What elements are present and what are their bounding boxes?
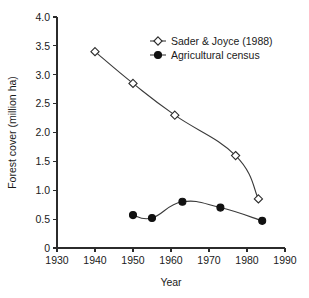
data-point — [259, 217, 266, 224]
legend-label: Sader & Joyce (1988) — [171, 35, 273, 47]
y-tick-label: 2.5 — [35, 97, 50, 109]
x-tick-label: 1960 — [159, 254, 183, 266]
y-tick-label: 4.0 — [35, 11, 50, 23]
legend-entry: Agricultural census — [150, 49, 260, 61]
x-axis-ticks: 1930194019501960197019801990 — [45, 248, 297, 266]
data-point — [149, 214, 156, 221]
data-point — [171, 111, 179, 119]
data-point — [254, 195, 262, 203]
line-chart: 00.51.01.52.02.53.03.54.0193019401950196… — [0, 0, 309, 298]
x-tick-label: 1930 — [45, 254, 69, 266]
x-tick-label: 1940 — [83, 254, 107, 266]
y-tick-label: 2.0 — [35, 126, 50, 138]
chart-figure: 00.51.01.52.02.53.03.54.0193019401950196… — [0, 0, 309, 298]
x-tick-label: 1970 — [197, 254, 221, 266]
x-tick-label: 1980 — [235, 254, 259, 266]
legend-marker — [155, 52, 162, 59]
y-tick-label: 3.5 — [35, 40, 50, 52]
data-point — [179, 198, 186, 205]
legend-marker — [154, 37, 162, 45]
series-2 — [130, 198, 266, 224]
series-1 — [91, 48, 263, 203]
data-point — [130, 212, 137, 219]
y-tick-label: 1.0 — [35, 184, 50, 196]
legend-entry: Sader & Joyce (1988) — [150, 35, 273, 47]
y-tick-label: 0.5 — [35, 213, 50, 225]
y-tick-label: 3.0 — [35, 69, 50, 81]
y-tick-label: 0 — [44, 242, 50, 254]
legend: Sader & Joyce (1988)Agricultural census — [150, 35, 273, 61]
x-tick-label: 1950 — [121, 254, 145, 266]
x-tick-label: 1990 — [273, 254, 297, 266]
y-axis-title: Forest cover (million ha) — [6, 76, 18, 189]
data-point — [217, 204, 224, 211]
y-tick-label: 1.5 — [35, 155, 50, 167]
series-line — [95, 52, 258, 199]
x-axis-title: Year — [160, 276, 182, 288]
legend-label: Agricultural census — [171, 49, 260, 61]
y-axis-ticks: 00.51.01.52.02.53.03.54.0 — [35, 11, 57, 254]
